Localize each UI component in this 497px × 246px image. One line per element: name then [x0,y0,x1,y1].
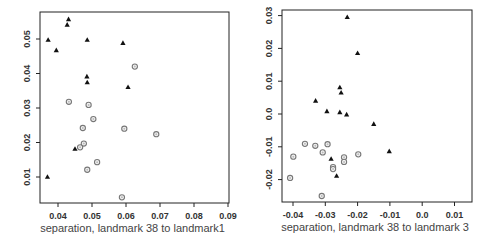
y-tick-label: 0.02 [264,40,274,58]
scatter-plots: 0.040.050.060.070.080.09separation, land… [0,0,497,246]
circle-marker-center [83,143,85,145]
series-triangles [45,17,131,179]
y-tick-label: 0.05 [22,30,32,48]
triangle-marker [66,17,71,22]
triangle-marker [371,121,376,126]
right-scatter-plot: -0.04-0.03-0.02-0.010.00.01separation, l… [264,7,472,233]
left-scatter-plot: 0.040.050.060.070.080.09separation, land… [22,12,237,234]
x-axis: 0.040.050.060.070.080.09separation, land… [40,203,237,234]
y-axis: -0.02-0.010.00.010.020.03 [264,7,282,190]
circle-marker-center [86,169,88,171]
y-tick-label: 0.02 [22,134,32,152]
circle-marker-center [314,145,316,147]
circle-marker-center [121,196,123,198]
triangle-marker [120,40,125,45]
circle-marker-center [357,153,359,155]
x-tick-label: -0.03 [315,210,336,220]
y-tick-label: 0.01 [22,168,32,186]
circle-marker-center [155,133,157,135]
circle-marker-center [68,101,70,103]
triangle-marker [337,110,342,115]
x-tick-label: -0.02 [347,210,368,220]
triangle-marker [65,22,70,27]
circle-marker-center [343,156,345,158]
circle-marker-center [332,168,334,170]
triangle-marker [46,37,51,42]
circle-marker-center [134,66,136,68]
circle-marker-center [82,127,84,129]
circle-marker-center [79,146,81,148]
y-tick-label: 0.01 [264,72,274,90]
y-axis: 0.010.020.030.040.05 [22,30,40,186]
triangle-marker [45,174,50,179]
triangle-marker [85,80,90,85]
triangle-marker [84,74,89,79]
x-tick-label: 0.01 [446,210,464,220]
circle-marker-center [343,161,345,163]
series-circles [287,141,360,198]
circle-marker-center [96,161,98,163]
circle-marker-center [292,156,294,158]
circle-marker-center [304,143,306,145]
x-axis-title: separation, landmark 38 to landmark1 [40,222,225,234]
series-circles [66,64,159,200]
x-tick-label: 0.08 [185,211,203,221]
plot-frame [282,10,472,202]
circle-marker-center [327,143,329,145]
triangle-marker [329,156,334,161]
y-tick-label: 0.03 [264,7,274,25]
triangle-marker [324,109,329,114]
triangle-marker [355,51,360,56]
y-tick-label: 0.03 [22,99,32,117]
x-tick-label: 0.0 [416,210,429,220]
plot-frame [40,12,229,203]
x-tick-label: 0.04 [49,211,67,221]
y-tick-label: -0.01 [264,137,274,158]
triangle-marker [125,85,130,90]
circle-marker-center [92,118,94,120]
triangle-marker [337,85,342,90]
circle-marker-center [88,104,90,106]
triangle-marker [54,48,59,53]
y-tick-label: 0.04 [22,65,32,83]
x-axis-title: separation, landmark 38 to landmark 3 [281,221,469,233]
x-tick-label: -0.04 [283,210,304,220]
x-tick-label: 0.09 [219,211,237,221]
circle-marker-center [322,151,324,153]
circle-marker-center [123,128,125,130]
x-tick-label: 0.07 [151,211,169,221]
triangle-marker [85,37,90,42]
y-tick-label: 0.0 [264,108,274,121]
triangle-marker [344,112,349,117]
y-tick-label: -0.02 [264,169,274,190]
triangle-marker [387,149,392,154]
circle-marker-center [321,195,323,197]
triangle-marker [339,90,344,95]
triangle-marker [313,98,318,103]
x-tick-label: 0.06 [117,211,135,221]
triangle-marker [72,146,77,151]
circle-marker-center [289,177,291,179]
x-tick-label: -0.01 [380,210,401,220]
x-axis: -0.04-0.03-0.02-0.010.00.01separation, l… [281,202,469,233]
triangle-marker [334,173,339,178]
triangle-marker [345,14,350,19]
x-tick-label: 0.05 [83,211,101,221]
